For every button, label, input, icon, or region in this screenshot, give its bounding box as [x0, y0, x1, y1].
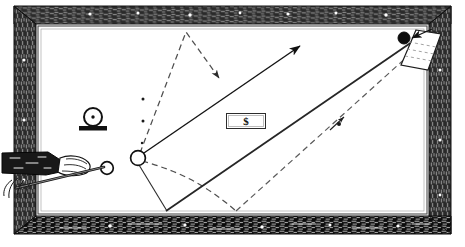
billiard-table-illustration: $ [0, 0, 465, 247]
object-ball [131, 151, 146, 166]
frame-rail-bottom [14, 216, 451, 234]
dollar-label-box: $ [226, 113, 266, 129]
target-ball-black [398, 32, 410, 44]
